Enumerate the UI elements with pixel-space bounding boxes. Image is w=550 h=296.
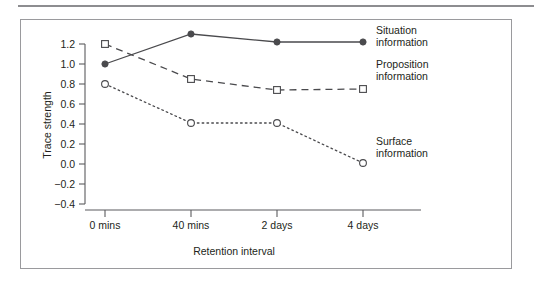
y-tick-label: −0.4 bbox=[54, 198, 75, 210]
situation-marker bbox=[360, 39, 366, 45]
x-axis-ticks bbox=[105, 210, 363, 217]
axes-group bbox=[85, 44, 421, 210]
annotation-line-1: Surface bbox=[376, 135, 412, 147]
proposition-marker bbox=[274, 87, 281, 94]
series-surface-information bbox=[102, 81, 367, 167]
figure-root: 1.2 1.0 0.8 0.6 0.4 0.2 0.0 −0.2 −0.4 0 … bbox=[0, 0, 550, 296]
situation-marker bbox=[274, 39, 280, 45]
y-tick-label: 1.0 bbox=[60, 58, 75, 70]
y-tick-label: 0.4 bbox=[60, 118, 75, 130]
annotation-proposition-information: Proposition information bbox=[376, 58, 429, 82]
proposition-marker bbox=[188, 76, 195, 83]
y-axis-title: Trace strength bbox=[41, 91, 53, 158]
y-tick-label: 1.2 bbox=[60, 38, 75, 50]
x-tick-label: 0 mins bbox=[90, 219, 121, 231]
y-tick-label: 0.0 bbox=[60, 158, 75, 170]
x-tick-label: 2 days bbox=[262, 219, 293, 231]
x-axis-tick-labels: 0 mins 40 mins 2 days 4 days bbox=[90, 219, 379, 231]
x-axis-title: Retention interval bbox=[193, 245, 275, 257]
top-horizontal-rule bbox=[18, 5, 534, 7]
y-tick-label: 0.2 bbox=[60, 138, 75, 150]
surface-marker bbox=[102, 81, 109, 88]
annotation-situation-information: Situation information bbox=[376, 24, 428, 48]
y-tick-label: −0.2 bbox=[54, 178, 75, 190]
surface-marker bbox=[360, 160, 367, 167]
surface-marker bbox=[188, 120, 195, 127]
situation-marker bbox=[102, 61, 108, 67]
situation-marker bbox=[188, 31, 194, 37]
y-tick-label: 0.8 bbox=[60, 78, 75, 90]
y-tick-label: 0.6 bbox=[60, 98, 75, 110]
proposition-marker bbox=[360, 86, 367, 93]
surface-line bbox=[105, 84, 363, 163]
series-situation-information bbox=[102, 31, 366, 67]
y-axis-tick-labels: 1.2 1.0 0.8 0.6 0.4 0.2 0.0 −0.2 −0.4 bbox=[54, 38, 75, 210]
series-proposition-information bbox=[102, 41, 367, 94]
figure-border-box: 1.2 1.0 0.8 0.6 0.4 0.2 0.0 −0.2 −0.4 0 … bbox=[20, 19, 512, 269]
x-tick-label: 40 mins bbox=[173, 219, 210, 231]
y-axis-ticks bbox=[79, 44, 85, 204]
line-chart: 1.2 1.0 0.8 0.6 0.4 0.2 0.0 −0.2 −0.4 0 … bbox=[21, 20, 510, 267]
annotation-line-1: Situation bbox=[376, 24, 417, 36]
x-tick-label: 4 days bbox=[348, 219, 379, 231]
proposition-marker bbox=[102, 41, 109, 48]
annotation-line-1: Proposition bbox=[376, 58, 429, 70]
surface-marker bbox=[274, 120, 281, 127]
annotation-line-2: information bbox=[376, 147, 428, 159]
annotation-line-2: information bbox=[376, 70, 428, 82]
annotation-surface-information: Surface information bbox=[376, 135, 428, 159]
annotation-line-2: information bbox=[376, 36, 428, 48]
